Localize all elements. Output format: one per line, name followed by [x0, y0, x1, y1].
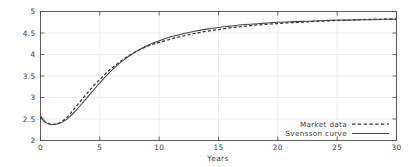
legend-label-svensson-curve: Svensson curve [285, 129, 347, 138]
y-tick-label: 5 [30, 7, 35, 16]
y-tick-label: 3.5 [23, 72, 36, 81]
x-tick-label: 0 [38, 143, 43, 152]
y-tick-label: 2 [30, 136, 35, 145]
y-tick-label: 4 [30, 50, 35, 59]
x-axis-title: Years [206, 154, 229, 163]
x-tick-label: 25 [332, 143, 342, 152]
x-tick-label: 5 [97, 143, 102, 152]
x-tick-label: 10 [154, 143, 164, 152]
yield-curve-chart: 22.533.544.55 051015202530 Years Market … [0, 0, 413, 167]
x-tick-label: 30 [391, 143, 401, 152]
y-tick-label: 3 [30, 93, 35, 102]
legend-label-market-data: Market data [300, 120, 347, 129]
x-tick-label: 15 [213, 143, 223, 152]
x-tick-label: 20 [273, 143, 283, 152]
chart-background [0, 0, 413, 167]
y-tick-label: 2.5 [23, 115, 36, 124]
y-tick-label: 4.5 [23, 29, 36, 38]
